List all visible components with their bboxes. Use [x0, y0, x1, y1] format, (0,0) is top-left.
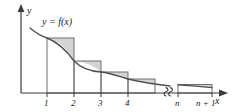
function-curve: [30, 28, 170, 86]
tick-label-3: 3: [98, 99, 103, 108]
shade-region-1: [47, 38, 74, 61]
integral-test-figure: [0, 0, 233, 112]
shade-region-2: [74, 61, 101, 72]
shaded-areas: [47, 38, 212, 88]
x-axis-arrowhead: [219, 89, 228, 96]
tick-label-n-plus-1: n + 1: [196, 99, 216, 108]
tick-label-2: 2: [71, 99, 76, 108]
tick-label-1: 1: [44, 99, 49, 108]
y-axis-label: y: [27, 6, 31, 16]
curve-label: y = f(x): [42, 17, 72, 27]
axis-break-icon: [164, 88, 172, 96]
y-axis-arrowhead: [18, 4, 25, 12]
figure-container: y x y = f(x) 1 2 3 4 n n + 1: [0, 0, 233, 112]
x-axis-label: x: [215, 96, 219, 106]
tick-label-n: n: [175, 99, 180, 108]
tick-label-4: 4: [125, 99, 130, 108]
